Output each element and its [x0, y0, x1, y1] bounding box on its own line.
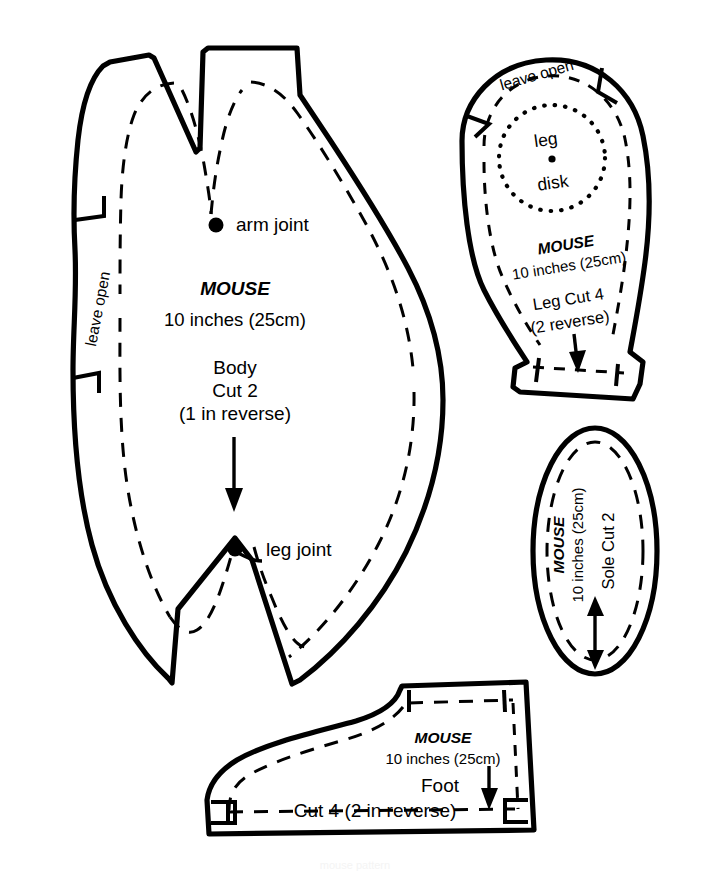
- arm-joint-dot: [209, 218, 224, 233]
- sole-piece-label: Sole Cut 2: [599, 512, 617, 589]
- foot-brand-label: MOUSE: [415, 729, 473, 746]
- body-size-label: 10 inches (25cm): [164, 309, 306, 330]
- body-cut-count: Cut 2: [212, 380, 257, 401]
- sole-size-label: 10 inches (25cm): [569, 487, 586, 602]
- pattern-sheet: leave open arm joint MOUSE 10 inches (25…: [0, 0, 711, 878]
- arm-joint-label: arm joint: [236, 214, 310, 235]
- pattern-piece-sole[interactable]: MOUSE 10 inches (25cm) Sole Cut 2: [533, 428, 657, 674]
- body-piece-label: Body: [213, 357, 257, 378]
- leg-disk-line1: leg: [533, 128, 559, 151]
- body-brand-label: MOUSE: [200, 278, 271, 299]
- foot-tick-topright: [504, 690, 505, 712]
- foot-piece-label: Foot: [421, 775, 460, 796]
- leg-disk-center-dot: [548, 155, 555, 162]
- leg-tick-right: [616, 364, 618, 386]
- sheet-watermark: mouse pattern: [320, 859, 390, 871]
- body-cut-reverse: (1 in reverse): [179, 403, 291, 424]
- sole-brand-label: MOUSE: [550, 516, 567, 574]
- foot-size-label: 10 inches (25cm): [385, 750, 500, 767]
- foot-cut-count: Cut 4 (2 in reverse): [294, 800, 457, 821]
- pattern-canvas: leave open arm joint MOUSE 10 inches (25…: [0, 0, 711, 878]
- leg-joint-label: leg joint: [266, 539, 332, 560]
